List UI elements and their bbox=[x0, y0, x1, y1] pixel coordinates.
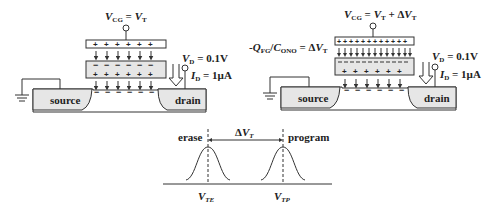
svg-text:+: + bbox=[403, 38, 407, 45]
left-drain-current-arrow-icon bbox=[169, 64, 183, 86]
svg-text:+: + bbox=[343, 38, 347, 45]
vtp-label: VTP bbox=[274, 190, 291, 204]
right-gate-terminal bbox=[370, 23, 376, 29]
right-drain-current-label: ID = 1µA bbox=[439, 68, 481, 82]
right-source-label: source bbox=[298, 92, 328, 104]
svg-text:+: + bbox=[355, 38, 359, 45]
right-drain-terminal bbox=[432, 64, 438, 70]
svg-text:−: − bbox=[148, 60, 153, 70]
svg-text:+: + bbox=[337, 38, 341, 45]
left-drain-label: drain bbox=[175, 94, 201, 106]
svg-text:+: + bbox=[93, 70, 98, 79]
svg-text:+: + bbox=[342, 67, 347, 76]
svg-text:+: + bbox=[104, 70, 109, 79]
left-ground-icon bbox=[15, 95, 29, 101]
svg-text:+: + bbox=[373, 38, 377, 45]
svg-text:−: − bbox=[138, 87, 143, 97]
left-drain-current-label: ID = 1µA bbox=[190, 69, 232, 83]
right-drain-label: drain bbox=[424, 92, 450, 104]
left-drain-terminal bbox=[182, 65, 188, 71]
svg-text:−: − bbox=[344, 85, 349, 95]
svg-text:+: + bbox=[367, 38, 371, 45]
left-source-label: source bbox=[50, 94, 80, 106]
right-gate-voltage-label: VCG = VT + ΔVT bbox=[344, 8, 417, 22]
svg-text:+: + bbox=[148, 70, 153, 79]
program-label: program bbox=[288, 131, 329, 143]
right-field-arrows-upper bbox=[339, 48, 410, 55]
erase-label: erase bbox=[178, 131, 203, 143]
left-gate-voltage-label: VCG = VT bbox=[105, 10, 147, 24]
right-drain-current-arrow-icon bbox=[419, 62, 433, 84]
svg-text:+: + bbox=[104, 40, 109, 49]
svg-text:−: − bbox=[116, 87, 121, 97]
svg-text:−: − bbox=[127, 87, 132, 97]
svg-text:−: − bbox=[377, 85, 382, 95]
svg-text:−: − bbox=[388, 85, 393, 95]
svg-text:−: − bbox=[93, 60, 98, 70]
left-gate-terminal bbox=[123, 25, 129, 31]
svg-text:−: − bbox=[115, 60, 120, 70]
vte-label: VTE bbox=[198, 190, 215, 204]
svg-text:−: − bbox=[399, 85, 404, 95]
svg-text:+: + bbox=[386, 67, 391, 76]
svg-text:+: + bbox=[115, 40, 120, 49]
svg-text:−: − bbox=[104, 60, 109, 70]
stored-charge-label: -QFG/CONO = ΔVT bbox=[249, 41, 328, 55]
right-drain-voltage-label: VD = 0.1V bbox=[432, 50, 478, 64]
right-cell: VCG = VT + ΔVT ++++ ++++ ++++ -QFG/CONO … bbox=[249, 8, 481, 110]
svg-text:+: + bbox=[137, 40, 142, 49]
svg-text:−: − bbox=[94, 87, 99, 97]
left-cell: VCG = VT + + + + + + − − − − bbox=[15, 10, 232, 112]
svg-text:+: + bbox=[126, 40, 131, 49]
svg-text:−: − bbox=[355, 85, 360, 95]
threshold-distribution-plot: ΔVT erase program VTE VTP bbox=[163, 126, 332, 204]
svg-text:+: + bbox=[397, 38, 401, 45]
svg-text:+: + bbox=[385, 38, 389, 45]
svg-text:+: + bbox=[375, 67, 380, 76]
right-ground-icon bbox=[263, 93, 277, 99]
svg-text:+: + bbox=[148, 40, 153, 49]
svg-text:+: + bbox=[126, 70, 131, 79]
svg-text:−: − bbox=[126, 60, 131, 70]
svg-text:+: + bbox=[349, 38, 353, 45]
svg-text:+: + bbox=[361, 38, 365, 45]
left-field-arrows-upper bbox=[96, 51, 151, 58]
svg-text:−: − bbox=[366, 85, 371, 95]
svg-text:+: + bbox=[137, 70, 142, 79]
svg-text:−: − bbox=[149, 87, 154, 97]
svg-text:+: + bbox=[391, 38, 395, 45]
svg-text:+: + bbox=[397, 67, 402, 76]
svg-text:+: + bbox=[364, 67, 369, 76]
flash-cell-threshold-diagram: VCG = VT + + + + + + − − − − bbox=[0, 0, 496, 209]
left-drain-voltage-label: VD = 0.1V bbox=[182, 52, 228, 66]
svg-text:+: + bbox=[379, 38, 383, 45]
svg-text:+: + bbox=[353, 67, 358, 76]
svg-text:−: − bbox=[105, 87, 110, 97]
svg-text:+: + bbox=[93, 40, 98, 49]
svg-text:+: + bbox=[115, 70, 120, 79]
delta-vt-label: ΔVT bbox=[235, 126, 254, 140]
svg-text:−: − bbox=[137, 60, 142, 70]
